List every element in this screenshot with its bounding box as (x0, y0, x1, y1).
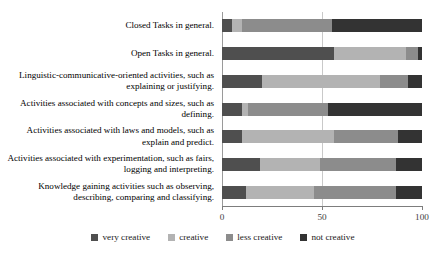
bar-segment-very-creative (222, 75, 262, 88)
category-label: Activities associated with experimentati… (0, 153, 214, 176)
bar-segment-not-creative (398, 130, 422, 143)
bar-row (222, 130, 422, 143)
bar-segment-very-creative (222, 103, 242, 116)
bar-segment-less-creative (314, 186, 396, 199)
tick-0 (222, 206, 223, 210)
bar-row (222, 186, 422, 199)
bar-row (222, 47, 422, 60)
bar-segment-not-creative (408, 75, 422, 88)
bar-segment-creative (242, 130, 334, 143)
x-tick-label-0: 0 (220, 212, 225, 222)
legend-swatch-icon (300, 234, 307, 241)
legend-swatch-icon (91, 234, 98, 241)
bar-segment-less-creative (406, 47, 418, 60)
category-label: Closed Tasks in general. (0, 20, 214, 31)
bar-row (222, 75, 422, 88)
x-tick-label-50: 50 (317, 212, 326, 222)
plot-area: 050100 (222, 12, 422, 206)
bar-segment-not-creative (396, 158, 422, 171)
legend-label: not creative (311, 232, 354, 242)
bar-segment-creative (334, 47, 406, 60)
legend-label: less creative (237, 232, 282, 242)
tick-50 (322, 206, 323, 210)
bar-segment-not-creative (418, 47, 422, 60)
category-label: Open Tasks in general. (0, 48, 214, 59)
stacked-bar-chart: Closed Tasks in general.Open Tasks in ge… (0, 0, 446, 263)
category-label: Activities associated with concepts and … (0, 98, 214, 121)
bar-segment-creative (262, 75, 380, 88)
category-label-column: Closed Tasks in general.Open Tasks in ge… (0, 12, 218, 206)
legend-swatch-icon (226, 234, 233, 241)
x-tick-label-100: 100 (415, 212, 429, 222)
bar-segment-less-creative (248, 103, 328, 116)
category-label: Knowledge gaining activities such as obs… (0, 181, 214, 204)
legend-item[interactable]: less creative (226, 232, 282, 242)
legend-label: very creative (102, 232, 150, 242)
legend-swatch-icon (168, 234, 175, 241)
bar-row (222, 103, 422, 116)
bar-segment-very-creative (222, 47, 334, 60)
bar-segment-less-creative (320, 158, 396, 171)
legend-item[interactable]: creative (168, 232, 208, 242)
bar-row (222, 19, 422, 32)
legend-item[interactable]: very creative (91, 232, 150, 242)
bar-row (222, 158, 422, 171)
bar-segment-not-creative (332, 19, 422, 32)
bar-segment-not-creative (396, 186, 422, 199)
bar-segment-very-creative (222, 130, 242, 143)
bar-segment-creative (260, 158, 320, 171)
bar-segment-very-creative (222, 19, 232, 32)
bar-segment-not-creative (328, 103, 422, 116)
tick-100 (422, 206, 423, 210)
bar-segment-very-creative (222, 158, 260, 171)
legend-label: creative (179, 232, 208, 242)
category-label: Activities associated with laws and mode… (0, 125, 214, 148)
bar-segment-very-creative (222, 186, 246, 199)
bar-segment-less-creative (380, 75, 408, 88)
bar-segment-less-creative (334, 130, 398, 143)
bar-segment-creative (246, 186, 314, 199)
legend-item[interactable]: not creative (300, 232, 354, 242)
bar-segment-less-creative (242, 19, 332, 32)
bar-segment-creative (232, 19, 242, 32)
chart-legend: very creativecreativeless creativenot cr… (0, 232, 446, 242)
category-label: Linguistic-communicative-oriented activi… (0, 70, 214, 93)
